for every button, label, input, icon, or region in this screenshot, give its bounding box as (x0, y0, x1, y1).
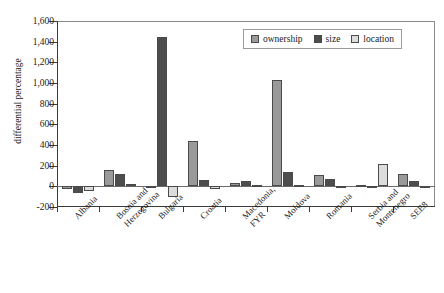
bar-location-moldova (294, 185, 305, 187)
legend-item-location: location (351, 33, 394, 45)
bar-ownership-macedonia-fyr (230, 183, 241, 187)
chart-figure: differential percentage 1,6001,4001,2001… (0, 0, 444, 293)
x-axis-labels: AlbaniaBosnia andHerzegovinaBulgariaCroa… (57, 208, 435, 293)
bar-size-serbia-and-montenegro (367, 186, 378, 188)
legend-label-ownership: ownership (263, 33, 303, 45)
bar-size-bulgaria (157, 37, 168, 187)
y-axis-title: differential percentage (13, 21, 23, 181)
bar-size-albania (73, 186, 84, 193)
bar-ownership-romania (314, 175, 325, 186)
y-tick-label: 1,600 (33, 14, 54, 28)
bar-size-croatia (199, 180, 210, 187)
bar-ownership-croatia (188, 141, 199, 186)
bar-location-macedonia-fyr (252, 185, 263, 187)
chart-legend: ownership size location (243, 29, 402, 49)
bar-ownership-moldova (272, 80, 283, 186)
y-axis-line (57, 21, 58, 207)
bar-location-romania (336, 186, 347, 188)
y-tick-label: 0 (49, 179, 54, 193)
bar-ownership-bosnia-and-herzegovina (104, 170, 115, 186)
bar-ownership-albania (62, 186, 73, 189)
bar-size-romania (325, 179, 336, 187)
legend-label-size: size (326, 33, 341, 45)
bar-location-see8 (420, 186, 431, 188)
y-tick-label: -200 (37, 200, 54, 214)
bar-size-macedonia-fyr (241, 181, 252, 187)
y-tick-label: 400 (40, 138, 54, 152)
y-tick-label: 200 (40, 159, 54, 173)
zero-baseline (57, 186, 435, 187)
legend-swatch-location-icon (351, 35, 359, 43)
bar-size-bosnia-and-herzegovina (115, 174, 126, 186)
bar-location-albania (84, 186, 95, 191)
y-tick-label: 800 (40, 97, 54, 111)
bar-location-serbia-and-montenegro (378, 164, 389, 186)
bar-ownership-serbia-and-montenegro (356, 185, 367, 187)
y-tick-label: 1,000 (33, 76, 54, 90)
plot-border-top (57, 21, 435, 22)
y-tick-label: 600 (40, 117, 54, 131)
legend-item-ownership: ownership (251, 33, 303, 45)
legend-swatch-size-icon (314, 35, 322, 43)
bar-location-croatia (210, 186, 221, 189)
bar-size-see8 (409, 181, 420, 187)
y-tick-label: 1,400 (33, 35, 54, 49)
bar-size-moldova (283, 172, 294, 186)
legend-label-location: location (363, 33, 394, 45)
legend-item-size: size (314, 33, 341, 45)
bar-location-bosnia-and-herzegovina (126, 184, 137, 186)
cropped-caption-text (0, 0, 444, 4)
legend-swatch-ownership-icon (251, 35, 259, 43)
plot-border-right (434, 21, 435, 207)
y-tick-label: 1,200 (33, 55, 54, 69)
